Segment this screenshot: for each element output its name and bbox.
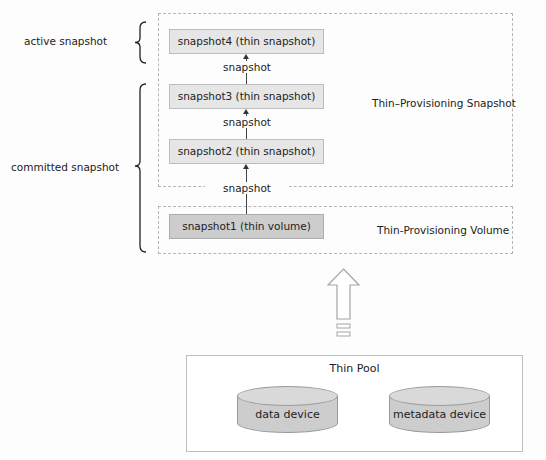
arrowhead-icon (243, 54, 249, 59)
edge-label: snapshot (205, 182, 289, 194)
data-device-label: data device (237, 408, 338, 421)
arrowhead-icon (243, 109, 249, 114)
active-snapshot-label: active snapshot (24, 35, 107, 47)
snapshot-region-label: Thin–Provisioning Snapshot (372, 97, 516, 109)
edge-label: snapshot (205, 116, 289, 128)
data-device-cylinder: data device (237, 386, 338, 433)
snapshot1-node: snapshot1 (thin volume) (169, 214, 324, 239)
volume-region-label: Thin-Provisioning Volume (377, 224, 509, 236)
thin-pool-title: Thin Pool (187, 362, 522, 375)
snapshot3-node: snapshot3 (thin snapshot) (169, 84, 324, 109)
thin-pool: Thin Pool data device metadata device (186, 355, 523, 452)
snapshot4-node: snapshot4 (thin snapshot) (169, 29, 324, 54)
metadata-device-label: metadata device (389, 408, 490, 421)
edge-label: snapshot (205, 61, 289, 73)
arrowhead-icon (243, 164, 249, 169)
snapshot2-node: snapshot2 (thin snapshot) (169, 139, 324, 164)
active-brace-icon (132, 20, 152, 65)
committed-brace-icon (132, 82, 152, 254)
metadata-device-cylinder: metadata device (389, 386, 490, 433)
up-arrow-icon (326, 268, 362, 342)
committed-snapshot-label: committed snapshot (11, 161, 119, 173)
